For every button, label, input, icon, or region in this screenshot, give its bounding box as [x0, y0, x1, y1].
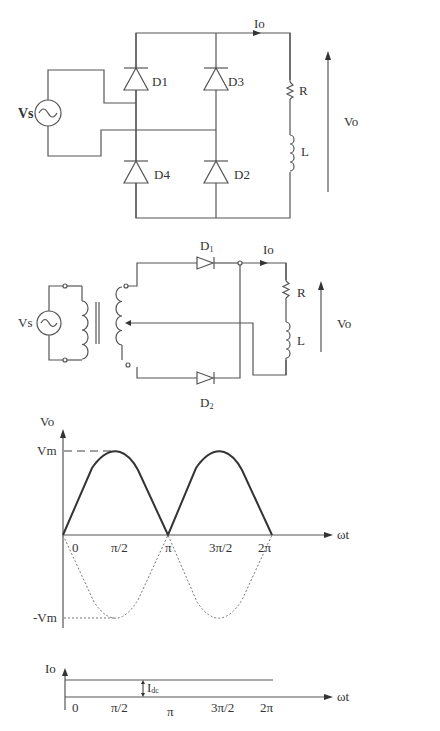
x-tick-2pi: 2π [258, 540, 272, 555]
inductor-label: L [301, 144, 309, 159]
center-tap-rectifier-circuit: Vs D1 Io [18, 238, 351, 411]
x-tick-3pi-2: 3π/2 [209, 540, 232, 555]
diode-label-d1: D1 [200, 238, 213, 254]
source-label: Vs [18, 106, 34, 121]
ac-source-icon [35, 100, 61, 126]
diode-d3-icon [204, 68, 228, 90]
resistor-label: R [297, 285, 306, 300]
x-tick-pi-2: π/2 [111, 700, 128, 715]
source-top-wire [48, 70, 136, 103]
diode-label-d2: D2 [200, 395, 213, 411]
source-bottom-wire [48, 126, 216, 156]
diode-d2-icon [197, 372, 214, 384]
resistor-label: R [299, 83, 308, 98]
arrow-right-icon [324, 694, 333, 700]
bridge-rectifier-circuit: Vs D1 D3 D4 D2 Io [18, 16, 358, 218]
terminal-icon [126, 363, 130, 367]
y-tick-vm: Vm [37, 443, 57, 458]
terminal-icon [63, 358, 67, 362]
arrow-up-icon [62, 668, 68, 676]
x-tick-3pi-2: 3π/2 [211, 700, 234, 715]
current-label: Io [254, 16, 265, 31]
y-axis-label: Io [45, 661, 56, 676]
diode-d1-icon [124, 68, 148, 90]
arrow-right-icon [324, 532, 333, 538]
diode-label-d1: D1 [152, 74, 168, 89]
x-tick-pi-2: π/2 [111, 540, 128, 555]
y-axis-label: Vo [40, 414, 54, 429]
x-tick-0: 0 [72, 700, 79, 715]
current-label: Io [263, 242, 274, 257]
center-tap-arrow-icon [125, 320, 131, 326]
arrow-up-icon [60, 429, 66, 438]
x-tick-pi: π [165, 540, 172, 555]
diode-label-d2: D2 [234, 167, 250, 182]
x-tick-2pi: 2π [260, 700, 274, 715]
diode-d1-icon [197, 257, 214, 269]
rectifier-figure: Vs D1 D3 D4 D2 Io [0, 0, 440, 731]
x-axis-label: ωt [337, 689, 350, 704]
idc-label: Idc [147, 680, 159, 695]
output-voltage-label: Vo [344, 114, 358, 129]
source-label: Vs [18, 315, 32, 330]
x-axis-label: ωt [337, 527, 350, 542]
secondary-winding-icon [116, 287, 122, 345]
primary-winding-icon [82, 301, 88, 359]
rectified-waveform [63, 451, 272, 535]
output-current-chart: Idc Io ωt 0 π/2 π 3π/2 2π [45, 661, 350, 719]
x-tick-0: 0 [72, 540, 79, 555]
idc-dimension-arrow [141, 680, 145, 697]
arrow-up-icon [318, 281, 324, 290]
ac-source-icon [37, 311, 61, 335]
output-voltage-chart: Vo ωt Vm -Vm 0 π/2 π 3π/2 2π [33, 414, 350, 628]
junction-terminal-icon [238, 261, 242, 265]
x-tick-pi: π [167, 704, 174, 719]
bridge-frame [136, 33, 290, 218]
diode-label-d3: D3 [228, 74, 244, 89]
terminal-icon [63, 284, 67, 288]
diode-d4-icon [124, 161, 148, 183]
y-tick-neg-vm: -Vm [33, 610, 57, 625]
output-voltage-label: Vo [337, 316, 351, 331]
diode-label-d4: D4 [154, 167, 170, 182]
current-arrow-icon [260, 260, 268, 266]
diode-d2-icon [204, 161, 228, 183]
inductor-label: L [297, 333, 305, 348]
arrow-up-icon [325, 51, 331, 60]
terminal-icon [124, 284, 128, 288]
